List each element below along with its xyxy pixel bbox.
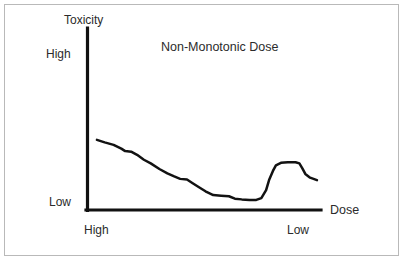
y-axis-tick-low: Low	[49, 196, 71, 208]
toxicity-curve-line	[97, 140, 317, 200]
y-axis-title: Toxicity	[64, 14, 103, 26]
chart-screenshot: Non-Monotonic Dose Toxicity High Low Hig…	[0, 0, 404, 261]
y-axis-tick-high: High	[46, 48, 71, 60]
chart-title: Non-Monotonic Dose	[161, 41, 278, 54]
x-axis-title: Dose	[330, 204, 359, 217]
x-axis-tick-low: Low	[287, 224, 309, 236]
x-axis-tick-high: High	[84, 224, 109, 236]
